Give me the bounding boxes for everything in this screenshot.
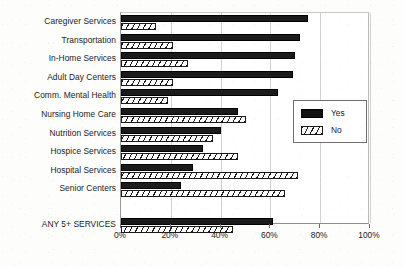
bar-yes: [121, 127, 221, 134]
bar-group: [121, 71, 368, 87]
chart-legend: Yes No: [293, 100, 367, 143]
category-label: Nutrition Services: [4, 129, 116, 138]
bar-yes: [121, 108, 238, 115]
bar-no: [121, 153, 238, 160]
category-label: Nursing Home Care: [4, 110, 116, 119]
legend-label-yes: Yes: [331, 108, 345, 119]
category-label: In-Home Services: [4, 54, 116, 63]
bar-no: [121, 172, 298, 179]
bar-group: [121, 145, 368, 161]
tick-100: [369, 224, 370, 228]
tick-label-40: 40%: [200, 230, 240, 241]
bar-no: [121, 190, 285, 197]
bar-yes: [121, 15, 308, 22]
bar-yes: [121, 145, 203, 152]
category-label: Comm. Mental Health: [4, 91, 116, 100]
tick-label-80: 80%: [299, 230, 339, 241]
x-axis-ticks: [120, 224, 369, 229]
legend-label-no: No: [331, 125, 342, 136]
bar-group: [121, 15, 368, 31]
category-label: Caregiver Services: [4, 17, 116, 26]
tick-80: [319, 224, 320, 228]
bar-group: [121, 34, 368, 50]
bar-yes: [121, 182, 181, 189]
bar-yes: [121, 52, 295, 59]
tick-0: [120, 224, 121, 228]
tick-label-60: 60%: [249, 230, 289, 241]
x-axis-tick-labels: 0%20%40%60%80%100%: [0, 230, 404, 244]
category-label: Hospice Services: [4, 147, 116, 156]
bar-yes: [121, 89, 278, 96]
legend-swatch-yes-icon: [301, 109, 323, 118]
bar-yes: [121, 34, 300, 41]
tick-label-20: 20%: [150, 230, 190, 241]
bar-yes: [121, 164, 193, 171]
tick-label-100: 100%: [349, 230, 389, 241]
category-label: Adult Day Centers: [4, 73, 116, 82]
bar-group: [121, 52, 368, 68]
bar-no: [121, 42, 173, 49]
bar-no: [121, 116, 246, 123]
bar-group: [121, 164, 368, 180]
category-label: ANY 5+ SERVICES: [4, 220, 116, 229]
legend-swatch-no-icon: [301, 126, 323, 135]
tick-label-0: 0%: [100, 230, 140, 241]
category-label: Hospital Services: [4, 166, 116, 175]
tick-60: [269, 224, 270, 228]
bar-no: [121, 135, 213, 142]
bar-no: [121, 97, 168, 104]
bar-no: [121, 23, 156, 30]
bar-no: [121, 79, 173, 86]
category-label: Senior Centers: [4, 184, 116, 193]
tick-20: [170, 224, 171, 228]
gridline-100: [370, 13, 371, 223]
category-label: Transportation: [4, 36, 116, 45]
bar-yes: [121, 71, 293, 78]
bar-no: [121, 60, 188, 67]
chart-page: Caregiver ServicesTransportationIn-Home …: [0, 0, 404, 267]
tick-40: [220, 224, 221, 228]
bar-group: [121, 182, 368, 198]
